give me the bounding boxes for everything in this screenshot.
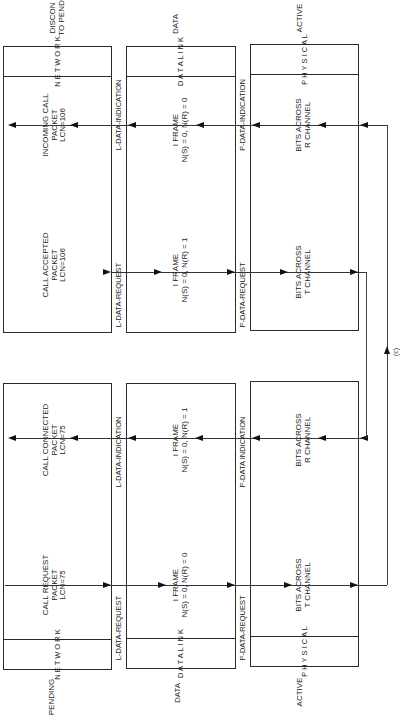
p-data-request-label-bottom: P-DATA-REQUEST [239, 595, 248, 660]
l-data-request-label-bottom: L-DATA-REQUEST [115, 596, 124, 660]
msg-i-frame-bottom-in: I FRAME N(S) = 0, N(R) = 1 [172, 408, 189, 473]
network-header: N E T W O R K [4, 639, 111, 669]
flow-line-bottom-out [5, 585, 387, 586]
arrow-up-icon [384, 346, 390, 354]
connector-line-r-to-t [366, 272, 367, 438]
physical-header: P H Y S I C A L [251, 45, 358, 75]
state-label-top-physical: ACTIVE [296, 4, 305, 33]
connector-label: (c) [392, 348, 400, 356]
arrow-icon [227, 582, 235, 588]
flow-line-bottom-in [10, 438, 366, 439]
arrow-icon [350, 582, 358, 588]
state-label-top-datalink: DATA [172, 14, 181, 34]
arrow-icon [103, 582, 111, 588]
arrow-icon [128, 122, 136, 128]
x25-call-setup-diagram: DISCON TO PEND DATA ACTIVE N E T W O R K… [0, 0, 400, 724]
state-label-top-network: DISCON TO PEND [48, 0, 66, 35]
msg-i-frame-top-out: I FRAME N(S) = 0, N(R) = 1 [172, 238, 189, 303]
arrow-icon [252, 435, 260, 441]
msg-i-frame-top-in: I FRAME N(S) = 0, N(R) = 0 [172, 98, 189, 163]
p-data-indication-label-bottom: P-DATA INDICATION [239, 417, 248, 488]
arrow-icon [70, 435, 78, 441]
arrow-icon [70, 122, 78, 128]
arrow-icon [154, 269, 162, 275]
network-header: N E T W O R K [4, 47, 111, 77]
state-label-bottom-physical: ACTIVE [296, 678, 305, 707]
connector-line-t-to-r [387, 125, 388, 585]
state-label-bottom-network: PENDING [48, 679, 57, 715]
arrow-icon [318, 435, 326, 441]
arrow-icon [318, 122, 326, 128]
state-label-bottom-datalink: DATA [174, 683, 183, 703]
arrow-icon [8, 122, 16, 128]
datalink-header: D A T A L I N K [127, 47, 235, 77]
arrow-icon [103, 269, 111, 275]
msg-bits-r-channel-bottom: BITS ACROSS R CHANNEL [295, 413, 312, 466]
arrow-icon [360, 122, 368, 128]
arrow-icon [252, 122, 260, 128]
arrow-icon [196, 122, 204, 128]
datalink-header: D A T A L I N K [127, 638, 235, 668]
msg-call-accepted-packet: CALL ACCEPTED PACKET LCN=106 [42, 232, 68, 297]
l-data-indication-label-bottom: L-DATA-INDICATION [115, 417, 124, 488]
arrow-icon [227, 269, 235, 275]
msg-call-connected-packet: CALL CONNECTED PACKET LCN=75 [42, 404, 68, 477]
arrow-icon [158, 582, 166, 588]
flow-line-top-out [112, 272, 366, 273]
l-data-indication-label-top: L-DATA-INDICATION [115, 80, 124, 151]
arrow-icon [128, 435, 136, 441]
arrow-icon [195, 435, 203, 441]
arrow-icon [284, 582, 292, 588]
arrow-icon [350, 269, 358, 275]
physical-header: P H Y S I C A L [251, 636, 358, 666]
p-data-indication-label-top: P-DATA-INDICATION [239, 79, 248, 151]
arrow-icon [280, 269, 288, 275]
arrow-icon [8, 435, 16, 441]
